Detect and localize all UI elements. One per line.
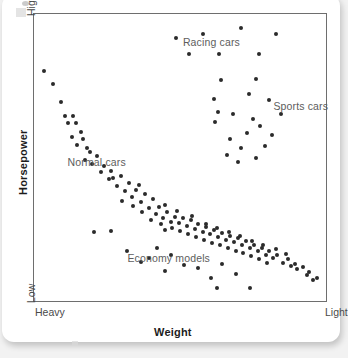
scatter-point	[275, 253, 279, 257]
scatter-point	[247, 92, 251, 96]
scatter-point	[154, 212, 158, 216]
scatter-point	[75, 143, 79, 147]
scatter-point	[161, 216, 165, 220]
scatter-point	[212, 97, 216, 101]
scatter-point	[239, 26, 243, 30]
scatter-point	[186, 232, 190, 236]
y-axis-bottom-label: Low	[25, 284, 37, 303]
scatter-point	[224, 238, 228, 242]
scatter-point	[220, 231, 224, 235]
scatter-point	[92, 230, 96, 234]
scatter-point	[209, 276, 213, 280]
scatter-point	[174, 36, 178, 40]
scatter-point	[208, 232, 212, 236]
scatter-point	[256, 249, 260, 253]
scatter-point	[281, 261, 285, 265]
scatter-point	[175, 209, 179, 213]
scatter-point	[196, 266, 200, 270]
scatter-point	[239, 146, 243, 150]
scatter-point	[225, 153, 229, 157]
scatter-point	[185, 224, 189, 228]
scatter-point	[130, 195, 134, 199]
scatter-point	[261, 243, 265, 247]
scatter-point	[219, 78, 223, 82]
y-axis-title: Horsepower	[17, 129, 29, 195]
plot-annotation-normal-cars: Normal cars	[68, 156, 126, 168]
scatter-point	[248, 246, 252, 250]
scatter-point	[99, 170, 103, 174]
scatter-point	[149, 218, 153, 222]
scan-artifact-mark-bottom	[72, 341, 78, 346]
scatter-point	[215, 286, 219, 290]
scatter-point	[236, 160, 240, 164]
scatter-point	[120, 199, 124, 203]
scatter-point	[286, 257, 290, 261]
scatter-point	[202, 238, 206, 242]
scatter-point	[159, 222, 163, 226]
scatter-point	[139, 200, 143, 204]
scatter-point	[274, 32, 278, 36]
scatter-point	[307, 270, 311, 274]
scatter-point	[165, 210, 169, 214]
scatter-point	[107, 177, 111, 181]
scatter-point	[204, 222, 208, 226]
scatter-point	[215, 226, 219, 230]
scatter-point	[123, 189, 127, 193]
scatter-point	[143, 192, 147, 196]
scatter-point	[284, 252, 288, 256]
scatter-point	[151, 197, 155, 201]
scatter-point	[51, 82, 55, 86]
scatter-point	[170, 226, 174, 230]
scatter-point	[196, 222, 200, 226]
scatter-point	[234, 272, 238, 276]
scatter-point	[252, 243, 256, 247]
scatter-point	[216, 235, 220, 239]
scatter-point	[111, 176, 115, 180]
scatter-point	[249, 254, 253, 258]
scatter-point	[169, 220, 173, 224]
scatter-point	[181, 216, 185, 220]
scatter-point	[63, 114, 67, 118]
scatter-point	[301, 265, 305, 269]
figure-root: Racing carsSports carsNormal carsEconomy…	[0, 0, 348, 358]
scatter-point	[217, 52, 221, 56]
scatter-point	[140, 210, 144, 214]
scatter-point	[315, 276, 319, 280]
x-axis-title: Weight	[154, 326, 192, 338]
scatter-point	[74, 121, 78, 125]
scatter-point	[137, 183, 141, 187]
scatter-point	[232, 240, 236, 244]
y-axis-top-label: High	[25, 0, 37, 16]
scatter-point	[109, 169, 113, 173]
scatter-point	[134, 188, 138, 192]
scatter-point	[81, 137, 85, 141]
scatter-point	[305, 273, 309, 277]
scatter-point	[109, 229, 113, 233]
scatter-point	[70, 135, 74, 139]
scatter-point	[157, 205, 161, 209]
scatter-point	[187, 52, 191, 56]
scatter-point	[279, 112, 283, 116]
scatter-point	[59, 100, 63, 104]
scatter-point	[155, 246, 159, 250]
scatter-point	[257, 257, 261, 261]
scatter-point	[213, 120, 217, 124]
scatter-point	[254, 156, 258, 160]
scatter-point	[251, 117, 255, 121]
scatter-point	[71, 114, 75, 118]
scatter-point	[258, 124, 262, 128]
scatter-point	[216, 110, 220, 114]
scatter-point	[177, 221, 181, 225]
scatter-point	[245, 131, 249, 135]
scatter-point	[178, 229, 182, 233]
scatter-point	[163, 203, 167, 207]
scatter-point	[189, 218, 193, 222]
scatter-point	[85, 146, 89, 150]
scatter-point	[201, 230, 205, 234]
scatter-point	[218, 243, 222, 247]
scatter-point	[238, 234, 242, 238]
scatter-point	[173, 215, 177, 219]
scatter-point	[226, 246, 230, 250]
scatter-point	[66, 121, 70, 125]
scatter-point	[119, 174, 123, 178]
